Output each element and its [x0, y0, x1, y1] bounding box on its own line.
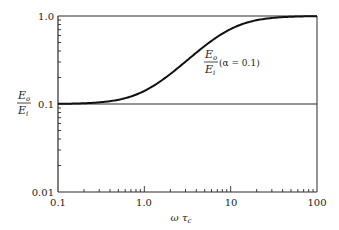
- svg-text:(α = 0.1): (α = 0.1): [219, 58, 260, 68]
- curve-label: Eo Ei (α = 0.1): [204, 48, 260, 77]
- y-tick-labels: 1.0 0.1 0.01: [32, 11, 54, 198]
- y-tick-label: 1.0: [38, 11, 54, 22]
- svg-text:Eo: Eo: [17, 89, 30, 103]
- x-tick-label: 1.0: [136, 197, 152, 208]
- y-axis-label: Eo Ei: [17, 89, 31, 118]
- svg-text:Eo: Eo: [204, 48, 217, 62]
- x-tick-labels: 0.1 1.0 10 100: [50, 197, 327, 208]
- x-axis-label: ω τc: [171, 212, 192, 225]
- response-curve: [58, 16, 317, 104]
- x-tick-label: 10: [225, 197, 238, 208]
- svg-text:Ei: Ei: [17, 104, 28, 118]
- axis-ticks: [58, 20, 313, 192]
- svg-text:Ei: Ei: [204, 63, 215, 77]
- x-tick-label: 100: [307, 197, 326, 208]
- bode-magnitude-chart: 1.0 0.1 0.01 0.1 1.0 10 100 Eo Ei Eo Ei …: [0, 0, 339, 230]
- y-tick-label: 0.1: [38, 99, 54, 110]
- svg-text:ω τc: ω τc: [171, 212, 192, 225]
- x-tick-label: 0.1: [50, 197, 66, 208]
